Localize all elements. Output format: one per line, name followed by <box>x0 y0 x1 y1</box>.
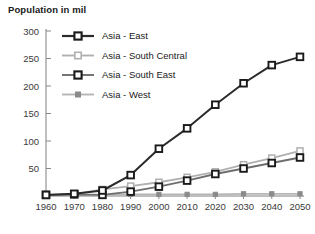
legend-entry-asia-south-east[interactable]: Asia - South East <box>62 69 176 80</box>
legend-entry-asia-south-central[interactable]: Asia - South Central <box>62 50 187 61</box>
x-tick-label: 2050 <box>289 201 310 212</box>
y-tick-label: 150 <box>23 108 39 119</box>
series-line <box>46 158 300 195</box>
legend-marker <box>74 71 81 78</box>
series-asia-south-east <box>43 154 304 198</box>
legend-marker <box>74 32 81 39</box>
legend-entry-asia-west[interactable]: Asia - West <box>62 89 151 100</box>
chart-legend: Asia - EastAsia - South CentralAsia - So… <box>62 30 187 100</box>
y-tick-label: 50 <box>28 163 39 174</box>
data-point-marker <box>240 80 247 87</box>
legend-label: Asia - West <box>102 89 151 100</box>
legend-marker <box>75 52 81 58</box>
data-point-marker <box>212 171 219 178</box>
x-tick-label: 2020 <box>205 201 226 212</box>
x-tick-label: 2030 <box>233 201 254 212</box>
legend-label: Asia - South East <box>102 69 176 80</box>
data-point-marker <box>185 192 189 196</box>
x-tick-label: 1970 <box>64 201 85 212</box>
x-tick-label: 1990 <box>120 201 141 212</box>
data-point-marker <box>127 172 134 179</box>
legend-entry-asia-east[interactable]: Asia - East <box>62 30 148 41</box>
data-point-marker <box>71 191 78 198</box>
data-point-marker <box>240 165 247 172</box>
data-point-marker <box>99 187 106 194</box>
y-tick-label: 300 <box>23 26 39 37</box>
x-tick-label: 2040 <box>261 201 282 212</box>
data-point-marker <box>268 160 275 167</box>
data-point-marker <box>297 54 304 61</box>
data-point-marker <box>213 192 217 196</box>
legend-label: Asia - South Central <box>102 50 187 61</box>
x-tick-label: 2010 <box>177 201 198 212</box>
data-point-marker <box>184 125 191 132</box>
y-tick-label: 250 <box>23 53 39 64</box>
data-point-marker <box>127 188 134 195</box>
data-point-marker <box>157 192 161 196</box>
data-point-marker <box>156 145 163 152</box>
data-point-marker <box>156 183 163 190</box>
data-point-marker <box>184 177 191 184</box>
x-tick-label: 1960 <box>35 201 56 212</box>
data-point-marker <box>43 192 50 199</box>
chart-plot-area: 50100150200250300 1960197019801990200020… <box>0 0 315 234</box>
data-point-marker <box>212 101 219 108</box>
data-point-marker <box>297 148 303 154</box>
legend-marker <box>76 92 81 97</box>
series-line <box>46 151 300 195</box>
series-asia-south-central <box>43 148 303 198</box>
x-tick-label: 1980 <box>92 201 113 212</box>
y-tick-label: 200 <box>23 81 39 92</box>
y-tick-label: 100 <box>23 136 39 147</box>
x-tick-label: 2000 <box>148 201 169 212</box>
data-point-marker <box>270 192 274 196</box>
data-point-marker <box>241 192 245 196</box>
legend-label: Asia - East <box>102 30 148 41</box>
y-axis: 50100150200250300 <box>23 26 51 197</box>
data-point-marker <box>298 192 302 196</box>
data-point-marker <box>297 154 304 161</box>
data-point-marker <box>268 62 275 69</box>
population-line-chart: Population in mil 50100150200250300 1960… <box>0 0 315 234</box>
